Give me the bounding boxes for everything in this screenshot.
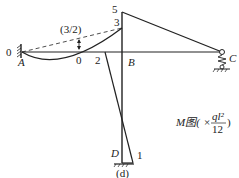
moment-5-to-C xyxy=(122,12,222,52)
value-diag-top: 2 xyxy=(95,54,101,66)
legend-prefix: M图( xyxy=(175,116,201,129)
node-D: D xyxy=(110,147,119,159)
legend-times: × xyxy=(204,116,210,128)
legend-suffix: ) xyxy=(227,116,231,129)
node-C: C xyxy=(229,52,237,64)
arrow-head-icon xyxy=(77,46,81,50)
legend-numerator: ql² xyxy=(212,110,225,122)
value-sag: (3/2) xyxy=(60,23,82,36)
legend-denominator: 12 xyxy=(212,123,223,135)
value-top-5: 5 xyxy=(112,3,118,15)
value-mid-span: 0 xyxy=(76,54,82,66)
legend: M图( × ql² 12 ) xyxy=(175,110,231,135)
diagonal-2-to-1 xyxy=(105,52,133,163)
moment-diagram: 0 (3/2) 0 2 5 3 1 A B C D M图( × ql² 12 )… xyxy=(0,0,239,178)
value-top-3: 3 xyxy=(114,16,120,28)
value-left-end: 0 xyxy=(6,46,12,58)
value-bottom-1: 1 xyxy=(137,149,143,161)
node-A: A xyxy=(17,56,25,68)
spring-support-C-icon xyxy=(213,50,230,73)
node-B: B xyxy=(128,56,135,68)
arrow-head-up-icon xyxy=(77,39,81,43)
caption: (d) xyxy=(116,167,129,178)
